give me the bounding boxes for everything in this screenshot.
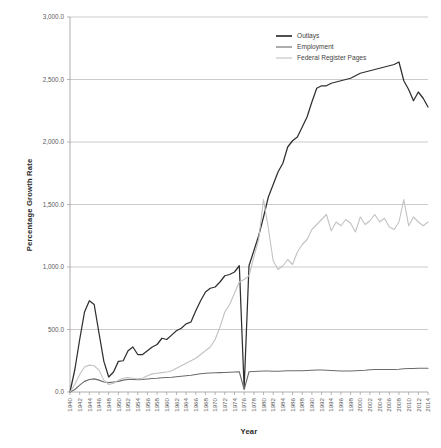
x-tick-label: 1948	[105, 397, 112, 411]
x-tick-label: 1986	[289, 397, 296, 411]
x-tick-label: 1994	[327, 397, 334, 411]
x-tick-label: 2012	[415, 397, 422, 411]
x-tick-label: 1988	[298, 397, 305, 411]
x-tick-label: 2006	[385, 397, 392, 411]
x-tick-label: 1972	[221, 397, 228, 411]
x-tick-label: 2000	[356, 397, 363, 411]
y-tick-label: 500.0	[48, 326, 64, 333]
x-tick-label: 1996	[337, 397, 344, 411]
x-tick-label: 1954	[134, 397, 141, 411]
x-tick-label: 1962	[173, 397, 180, 411]
series-line-employment	[70, 368, 428, 392]
y-axis-ticks: 0.0500.01,000.01,500.02,000.02,500.03,00…	[43, 13, 70, 395]
x-tick-label: 1982	[269, 397, 276, 411]
x-tick-label: 1942	[76, 397, 83, 411]
x-tick-label: 1974	[231, 397, 238, 411]
series-line-outlays	[70, 62, 428, 392]
x-axis-title: Year	[241, 427, 258, 436]
legend-label: Federal Register Pages	[297, 54, 367, 62]
x-tick-label: 1946	[95, 397, 102, 411]
y-tick-label: 1,000.0	[43, 263, 65, 270]
x-tick-label: 1978	[250, 397, 257, 411]
y-tick-label: 1,500.0	[43, 201, 65, 208]
legend-label: Employment	[297, 43, 334, 51]
x-tick-label: 1956	[144, 397, 151, 411]
x-tick-label: 2008	[395, 397, 402, 411]
x-tick-label: 1976	[240, 397, 247, 411]
x-tick-label: 1984	[279, 397, 286, 411]
x-tick-label: 1990	[308, 397, 315, 411]
data-series	[70, 62, 428, 392]
y-tick-label: 3,000.0	[43, 13, 65, 20]
x-axis-ticks: 1940194219441946194819501952195419561958…	[66, 392, 431, 412]
x-tick-label: 1968	[202, 397, 209, 411]
y-tick-label: 2,500.0	[43, 76, 65, 83]
x-tick-label: 1950	[115, 397, 122, 411]
x-tick-label: 1992	[318, 397, 325, 411]
x-tick-label: 1980	[260, 397, 267, 411]
y-tick-label: 2,000.0	[43, 138, 65, 145]
x-tick-label: 2014	[424, 397, 431, 411]
x-tick-label: 2010	[405, 397, 412, 411]
y-axis-title: Percentage Growth Rate	[25, 159, 34, 252]
growth-rate-line-chart: 0.0500.01,000.01,500.02,000.02,500.03,00…	[0, 0, 441, 448]
x-tick-label: 1940	[66, 397, 73, 411]
x-tick-label: 2004	[376, 397, 383, 411]
x-tick-label: 1960	[163, 397, 170, 411]
chart-legend: OutlaysEmploymentFederal Register Pages	[276, 32, 367, 62]
series-line-federal-register-pages	[70, 200, 428, 393]
x-tick-label: 1952	[124, 397, 131, 411]
x-tick-label: 1966	[192, 397, 199, 411]
x-tick-label: 2002	[366, 397, 373, 411]
legend-label: Outlays	[297, 32, 320, 40]
y-tick-label: 0.0	[55, 388, 64, 395]
x-tick-label: 1998	[347, 397, 354, 411]
gridlines	[70, 17, 428, 330]
x-tick-label: 1964	[182, 397, 189, 411]
x-tick-label: 1944	[86, 397, 93, 411]
x-tick-label: 1970	[211, 397, 218, 411]
x-tick-label: 1958	[153, 397, 160, 411]
chart-container: 0.0500.01,000.01,500.02,000.02,500.03,00…	[0, 0, 441, 448]
